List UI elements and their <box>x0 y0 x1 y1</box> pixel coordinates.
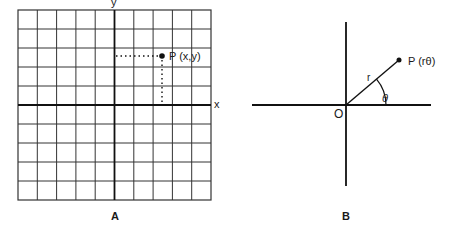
x-axis-label: x <box>214 98 220 110</box>
point-p-marker <box>397 58 402 63</box>
caption-b: B <box>342 210 350 222</box>
caption-a: A <box>111 210 119 222</box>
radius-label: r <box>367 72 371 83</box>
y-axis-label: y <box>111 0 117 8</box>
point-p-label: P (x,y) <box>169 50 201 62</box>
angle-label: θ <box>382 92 388 104</box>
coordinate-systems-figure: P (x,y) x y A P (rθ) r θ O B <box>0 0 459 227</box>
origin-label: O <box>334 107 343 121</box>
polar-diagram: P (rθ) r θ O B <box>252 22 435 222</box>
cartesian-diagram: P (x,y) x y A <box>18 0 220 222</box>
radius-line <box>346 60 399 105</box>
point-p-label: P (rθ) <box>408 55 435 67</box>
point-p-marker <box>159 53 165 59</box>
